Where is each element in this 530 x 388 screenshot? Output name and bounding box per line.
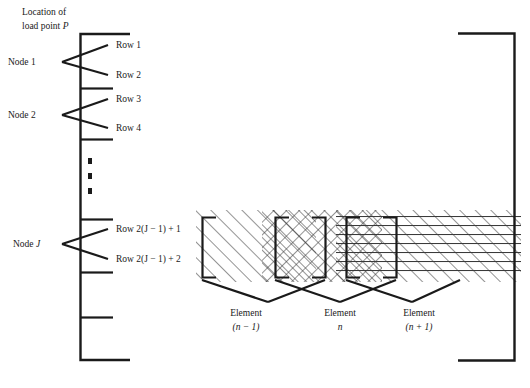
- row-label-j-2: Row 2(J − 1) + 2: [116, 254, 181, 265]
- element-leader-lines: [202, 280, 460, 302]
- row-label-j-1: Row 2(J − 1) + 1: [116, 224, 181, 235]
- row-label-1: Row 1: [116, 40, 141, 50]
- diagram-canvas: Location of load point P Node 1 Node 2 N…: [0, 0, 530, 388]
- node-label-1: Node 1: [8, 57, 36, 67]
- element-box-n-plus-1: [336, 210, 521, 282]
- load-point-symbol: P: [62, 21, 69, 31]
- left-bracket: [81, 34, 131, 360]
- element-label-3-line1: Element: [403, 308, 435, 318]
- element-label-3-line2: (n + 1): [406, 322, 433, 333]
- element-label-1-expr: (n − 1): [233, 322, 260, 333]
- element-label-1-line2: (n − 1): [233, 322, 260, 333]
- row-leader-lines: [62, 45, 108, 259]
- load-point-annotation-line2: load point P: [22, 21, 69, 31]
- row-label-2: Row 2: [116, 70, 141, 80]
- element-label-2-line2: n: [338, 322, 343, 332]
- element-label-3-expr: (n + 1): [406, 322, 433, 333]
- element-label-2-expr: n: [338, 322, 343, 332]
- element-label-1-line1: Element: [230, 308, 262, 318]
- node-label-j: Node J: [13, 239, 41, 249]
- vertical-ellipsis-icon: [88, 158, 92, 194]
- stiffness-matrix-diagram: Location of load point P Node 1 Node 2 N…: [0, 0, 530, 388]
- right-bracket: [458, 34, 515, 361]
- node-label-j-symbol: J: [36, 239, 41, 249]
- load-point-annotation-line1: Location of: [22, 7, 67, 17]
- node-label-j-prefix: Node: [13, 239, 36, 249]
- element-label-2-line1: Element: [324, 308, 356, 318]
- element-labels: Element (n − 1) Element n Element (n + 1…: [230, 308, 435, 333]
- left-labels: Location of load point P Node 1 Node 2 N…: [8, 7, 181, 265]
- load-point-annotation-prefix: load point: [22, 21, 63, 31]
- row-label-4: Row 4: [116, 123, 141, 133]
- node-label-2: Node 2: [8, 110, 36, 120]
- row-label-3: Row 3: [116, 94, 141, 104]
